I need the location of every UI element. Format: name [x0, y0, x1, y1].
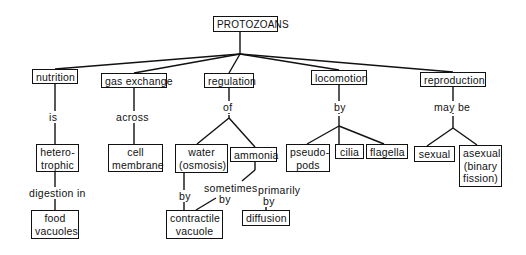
- connector-line: [197, 118, 229, 144]
- connector-line: [55, 54, 240, 69]
- link-label-across: across: [115, 111, 150, 123]
- link-label-of: of: [222, 101, 233, 113]
- node-contractile-vacuole: contractile vacuole: [166, 210, 223, 239]
- connector-line: [453, 128, 477, 145]
- link-label-by-sometimes: by: [218, 193, 232, 205]
- link-label-by-loco: by: [333, 101, 347, 113]
- node-ammonia: ammonia: [230, 147, 277, 162]
- connector-line: [134, 54, 240, 73]
- connector-line: [240, 54, 339, 70]
- node-reproduction: reproduction: [420, 72, 486, 87]
- connector-line: [229, 118, 255, 147]
- connector-line: [196, 198, 216, 210]
- node-gas-exchange: gas exchange: [101, 73, 167, 88]
- link-label-digestion-in: digestion in: [28, 187, 87, 199]
- node-regulation: regulation: [204, 73, 254, 88]
- node-food-vacuoles: food vacuoles: [31, 210, 79, 239]
- node-cell-membrane: cell membrane: [108, 144, 163, 172]
- connector-line: [307, 126, 339, 144]
- link-label-is: is: [48, 111, 58, 123]
- link-label-may-be: may be: [433, 101, 471, 113]
- connector-line: [229, 54, 240, 73]
- connector-line: [242, 170, 255, 181]
- node-locomotion: locomotion: [311, 70, 367, 85]
- node-nutrition: nutrition: [32, 69, 78, 84]
- node-sexual: sexual: [414, 146, 455, 162]
- node-flagella: flagella: [366, 144, 408, 159]
- node-cilia: cilia: [335, 144, 364, 159]
- link-label-by-water: by: [178, 190, 192, 202]
- node-water: water (osmosis): [175, 144, 228, 173]
- concept-map: PROTOZOANSnutritiongas exchangeregulatio…: [0, 0, 526, 255]
- node-protozoans: PROTOZOANS: [213, 16, 278, 32]
- connector-line: [427, 128, 453, 146]
- node-diffusion: diffusion: [242, 210, 290, 226]
- node-pseudopods: pseudo- pods: [286, 144, 330, 172]
- connector-line: [339, 126, 384, 144]
- node-heterotrophic: hetero- trophic: [36, 144, 79, 172]
- node-asexual: asexual (binary fission): [459, 145, 502, 187]
- link-label-by-primarily: by: [262, 195, 276, 207]
